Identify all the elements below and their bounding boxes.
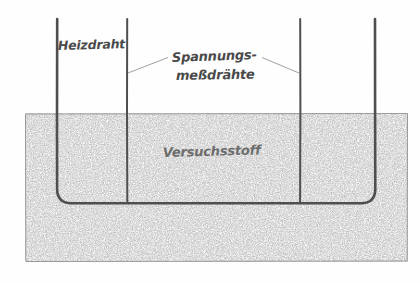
label-heating-wire: Heizdraht <box>58 36 127 53</box>
leader-line-left <box>128 58 168 74</box>
leader-line-right <box>262 58 299 74</box>
label-voltage-wires-line1: Spannungs- <box>172 47 257 65</box>
figure-container: Heizdraht Spannungs- meßdrähte Versuchss… <box>0 0 420 283</box>
test-material-stipple-coarse <box>25 113 408 262</box>
technical-diagram: Heizdraht Spannungs- meßdrähte Versuchss… <box>0 0 420 283</box>
label-test-material: Versuchsstoff <box>163 142 264 160</box>
test-material-region <box>25 113 408 262</box>
label-voltage-wires-line2: meßdrähte <box>176 67 255 83</box>
